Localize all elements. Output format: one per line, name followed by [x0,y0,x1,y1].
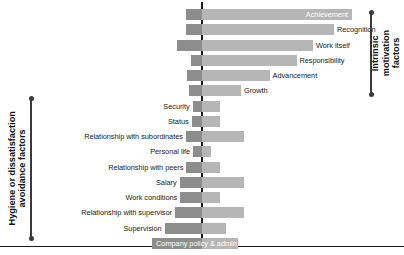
hygiene-bracket-line [30,99,32,239]
table-row: Advancement [0,70,404,81]
bar-label: Advancement [273,70,318,81]
table-row: Relationship with peers [0,162,404,173]
satisfaction-bar [202,70,270,81]
satisfaction-bar [202,24,334,35]
chart-figure: AchievementRecognitionWork itselfRespons… [0,0,404,255]
satisfaction-bar [202,40,313,51]
bar-label: Work itself [316,40,350,51]
plot-area: AchievementRecognitionWork itselfRespons… [0,0,404,255]
bar-label: Responsibility [300,55,345,66]
dissatisfaction-bar [189,85,202,96]
table-row: Growth [0,85,404,96]
dissatisfaction-bar [193,101,202,112]
table-row: Relationship with subordinates [0,131,404,142]
satisfaction-bar [202,131,244,142]
dissatisfaction-bar [187,70,202,81]
intrinsic-bracket-label: Intrinsic motivation factors [374,12,398,94]
satisfaction-bar [202,192,220,203]
dissatisfaction-bar [186,162,202,173]
satisfaction-bar [202,223,226,234]
dissatisfaction-bar [186,24,202,35]
hygiene-bracket-dot-bottom [29,236,34,241]
table-row: Status [0,116,404,127]
table-row: Work conditions [0,192,404,203]
table-row: Work itself [0,40,404,51]
satisfaction-bar [202,116,220,127]
satisfaction-bar [202,146,211,157]
table-row: Responsibility [0,55,404,66]
hygiene-bracket-dot-top [29,96,34,101]
dissatisfaction-bar [186,131,202,142]
table-row: Security [0,101,404,112]
table-row: Achievement [0,9,404,20]
bar-label: Growth [244,85,268,96]
hygiene-bracket-label: Hygiene or dissatisfaction avoidance fac… [5,99,29,239]
table-row: Recognition [0,24,404,35]
bar-label: Company policy & admin. [156,238,239,249]
satisfaction-bar [202,162,220,173]
dissatisfaction-bar [180,192,202,203]
satisfaction-bar [202,55,297,66]
satisfaction-bar [202,207,244,218]
table-row: Salary [0,177,404,188]
dissatisfaction-bar [193,146,202,157]
satisfaction-bar [202,101,220,112]
dissatisfaction-bar [180,177,202,188]
table-row: Personal life [0,146,404,157]
dissatisfaction-bar [175,207,202,218]
dissatisfaction-bar [177,40,202,51]
bar-label: Achievement [0,9,348,20]
satisfaction-bar [202,85,241,96]
dissatisfaction-bar [191,55,202,66]
dissatisfaction-bar [165,223,202,234]
dissatisfaction-bar [192,116,202,127]
satisfaction-bar [202,177,244,188]
table-row: Supervision [0,223,404,234]
table-row: Company policy & admin. [0,238,404,249]
table-row: Relationship with supervisor [0,207,404,218]
